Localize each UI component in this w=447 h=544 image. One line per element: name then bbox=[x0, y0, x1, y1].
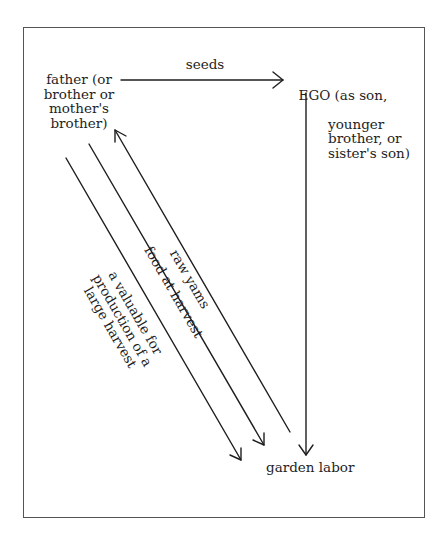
edge-label-seeds: seeds bbox=[183, 57, 227, 72]
node-garden-labor: garden labor bbox=[266, 460, 354, 475]
node-ego: EGO (as son, younger brother, or sister'… bbox=[290, 73, 420, 175]
node-ego-first-line: EGO (as son, bbox=[299, 87, 388, 103]
arrow-seeds bbox=[121, 72, 283, 88]
node-ego-rest: younger brother, or sister's son) bbox=[290, 117, 420, 161]
node-father: father (or brother or mother's brother) bbox=[36, 72, 122, 130]
